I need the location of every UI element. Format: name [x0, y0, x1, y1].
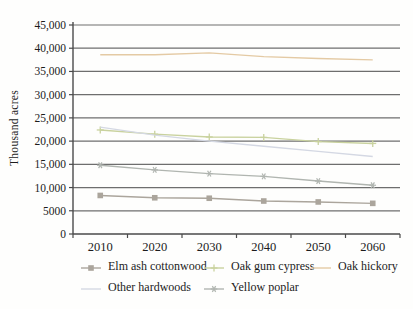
chart-legend: Elm ash cottonwood Oak gum cypress Oak h…	[80, 259, 398, 295]
svg-text:2060: 2060	[360, 240, 385, 254]
legend-item-oak-gum-cypress: Oak gum cypress	[203, 259, 310, 274]
svg-text:5000: 5000	[43, 205, 66, 217]
svg-text:30,000: 30,000	[34, 89, 66, 102]
elm-ash-cottonwood-marker-icon	[80, 262, 102, 272]
svg-text:2050: 2050	[306, 240, 331, 254]
legend-item-yellow-poplar: Yellow poplar	[203, 280, 310, 295]
legend-label-oak-hickory: Oak hickory	[338, 259, 398, 274]
legend-item-other-hardwoods: Other hardwoods	[80, 280, 203, 295]
svg-text:2010: 2010	[88, 240, 113, 254]
svg-text:0: 0	[60, 228, 66, 240]
legend-label-other-hardwoods: Other hardwoods	[108, 280, 191, 295]
other-hardwoods-marker-icon	[80, 283, 102, 293]
legend-item-elm-ash-cottonwood: Elm ash cottonwood	[80, 259, 203, 274]
svg-text:45,000: 45,000	[34, 19, 66, 32]
line-chart-figure: 0500010,00015,00020,00025,00030,00035,00…	[0, 0, 413, 309]
legend-label-elm-ash-cottonwood: Elm ash cottonwood	[108, 259, 207, 274]
oak-hickory-marker-icon	[310, 262, 332, 272]
svg-text:25,000: 25,000	[34, 112, 66, 125]
svg-text:40,000: 40,000	[34, 42, 66, 55]
legend-label-oak-gum-cypress: Oak gum cypress	[231, 259, 314, 274]
svg-text:2020: 2020	[142, 240, 167, 254]
svg-text:2040: 2040	[251, 240, 276, 254]
yellow-poplar-marker-icon	[203, 283, 225, 293]
oak-gum-cypress-marker-icon	[203, 262, 225, 272]
svg-text:10,000: 10,000	[34, 182, 66, 195]
svg-text:20,000: 20,000	[34, 135, 66, 148]
svg-text:15,000: 15,000	[34, 158, 66, 171]
svg-text:35,000: 35,000	[34, 65, 66, 78]
legend-label-yellow-poplar: Yellow poplar	[231, 280, 299, 295]
legend-item-oak-hickory: Oak hickory	[310, 259, 398, 274]
y-axis-title: Thousand acres	[8, 90, 20, 166]
svg-text:2030: 2030	[197, 240, 222, 254]
